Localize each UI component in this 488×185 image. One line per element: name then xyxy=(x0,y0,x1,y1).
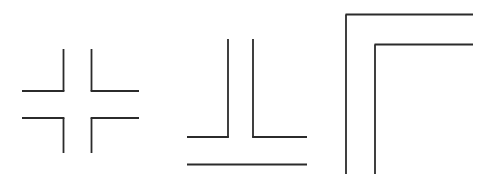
figure-canvas xyxy=(0,0,488,185)
canvas-background xyxy=(0,0,488,185)
line-drawing-svg xyxy=(0,0,488,185)
